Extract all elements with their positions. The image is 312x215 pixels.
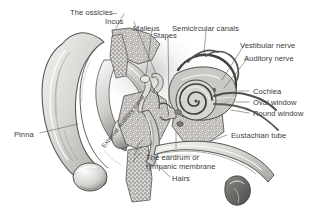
label-cochlea: Cochlea <box>253 87 281 96</box>
label-incus: Incus <box>105 17 123 26</box>
label-eardrum: The eardrum or tympanic membrane <box>146 153 218 171</box>
label-hairs: Hairs <box>172 174 190 183</box>
label-auditory-nerve: Auditory nerve <box>244 54 294 63</box>
label-eustachian-tube: Eustachian tube <box>231 131 286 140</box>
oval-window <box>175 110 182 115</box>
label-oval-window: Oval window <box>253 98 297 107</box>
label-semicircular-canals: Semicircular canals <box>172 24 239 33</box>
cochlea <box>176 80 216 120</box>
label-pinna: Pinna <box>14 130 34 139</box>
ear-anatomy-figure: The ossicles– Incus Malleus Stapes Semic… <box>0 0 312 215</box>
inset-ossicle <box>225 176 251 205</box>
label-ossicles: The ossicles– <box>70 8 117 17</box>
label-vestibular-nerve: Vestibular nerve <box>240 41 295 50</box>
round-window <box>177 122 183 127</box>
label-round-window: Round window <box>253 109 303 118</box>
